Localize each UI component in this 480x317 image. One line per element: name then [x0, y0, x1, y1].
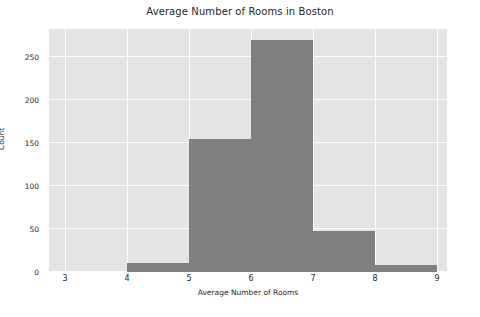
histogram-bar: [127, 263, 189, 272]
y-tick-label: 250: [0, 53, 44, 62]
x-tick-label: 4: [112, 274, 142, 283]
x-tick-label: 9: [422, 274, 452, 283]
chart-title: Average Number of Rooms in Boston: [0, 6, 480, 17]
x-axis-label: Average Number of Rooms: [49, 288, 447, 297]
bar-series: [49, 29, 447, 272]
plot-area: [49, 29, 447, 272]
x-tick-label: 7: [298, 274, 328, 283]
x-tick-label: 6: [236, 274, 266, 283]
x-tick-label: 3: [50, 274, 80, 283]
x-tick-label: 8: [360, 274, 390, 283]
y-tick-label: 150: [0, 139, 44, 148]
y-tick-label: 50: [0, 225, 44, 234]
x-tick-label: 5: [174, 274, 204, 283]
histogram-bar: [313, 231, 375, 272]
histogram-bar: [189, 139, 251, 272]
histogram-figure: Average Number of Rooms in Boston Count …: [0, 0, 480, 317]
histogram-bar: [375, 265, 437, 272]
y-tick-label: 0: [0, 268, 44, 277]
y-tick-label: 200: [0, 96, 44, 105]
histogram-bar: [251, 40, 313, 272]
y-tick-label: 100: [0, 182, 44, 191]
